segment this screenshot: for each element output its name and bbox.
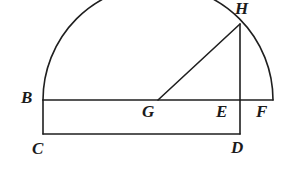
segment-GH	[158, 24, 240, 100]
vertex-label-G: G	[142, 103, 154, 120]
vertex-label-B: B	[21, 89, 32, 106]
vertex-label-E: E	[216, 103, 227, 120]
vertex-label-H: H	[235, 0, 248, 17]
vertex-label-C: C	[32, 140, 43, 157]
geometry-canvas	[0, 0, 285, 188]
vertex-label-D: D	[231, 139, 243, 156]
geometry-figure: B C D E F G H	[0, 0, 285, 188]
vertex-label-F: F	[256, 103, 267, 120]
